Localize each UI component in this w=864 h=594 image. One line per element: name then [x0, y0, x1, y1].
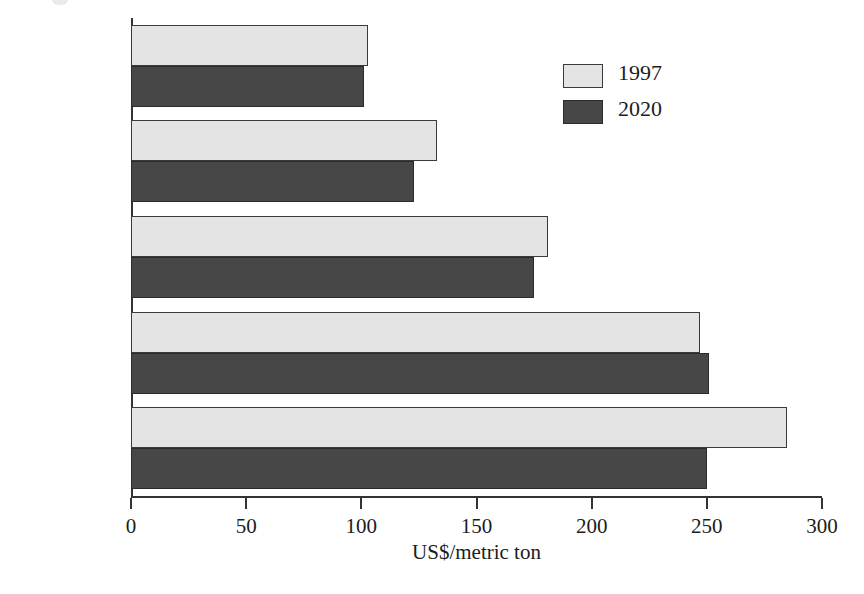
page-artifact-mark: [52, 0, 68, 5]
bar-rice-1997: [131, 407, 787, 448]
bar-wheat-2020: [131, 161, 414, 202]
x-tick-mark-50: [245, 498, 247, 509]
x-tick-label-250: 250: [691, 514, 723, 539]
x-tick-mark-100: [360, 498, 362, 509]
x-tick-label-50: 50: [236, 514, 257, 539]
bar-maize-1997: [131, 25, 368, 66]
x-tick-mark-0: [130, 498, 132, 509]
bar-chart: 050100150200250300 MaizeWheatBeefSoy bea…: [0, 0, 864, 594]
bar-beef-1997: [131, 216, 548, 257]
x-tick-mark-150: [476, 498, 478, 509]
x-tick-label-150: 150: [461, 514, 493, 539]
bar-soy-beans-1997: [131, 312, 700, 353]
x-tick-mark-200: [591, 498, 593, 509]
x-tick-label-0: 0: [126, 514, 137, 539]
legend-swatch-1997: [563, 64, 603, 88]
bar-wheat-1997: [131, 120, 437, 161]
legend-label-1997: 1997: [618, 60, 662, 86]
bar-beef-2020: [131, 257, 534, 298]
bar-maize-2020: [131, 66, 364, 107]
legend-swatch-2020: [563, 100, 603, 124]
x-tick-mark-250: [706, 498, 708, 509]
x-axis-title: US$/metric ton: [131, 540, 822, 565]
bar-rice-2020: [131, 448, 707, 489]
plot-area: 050100150200250300 MaizeWheatBeefSoy bea…: [131, 18, 822, 496]
x-tick-label-100: 100: [346, 514, 378, 539]
legend-label-2020: 2020: [618, 96, 662, 122]
x-tick-mark-300: [821, 498, 823, 509]
bar-soy-beans-2020: [131, 353, 709, 394]
x-tick-label-300: 300: [806, 514, 838, 539]
x-tick-label-200: 200: [576, 514, 608, 539]
